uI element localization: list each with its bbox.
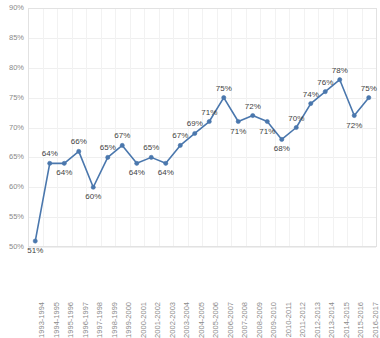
data-point-marker[interactable] [251,113,255,117]
x-axis-tick-label: 2010-2011 [285,302,293,337]
x-axis-tick-label: 1998-1999 [111,302,119,338]
data-point-marker[interactable] [338,78,342,82]
data-point-marker[interactable] [149,155,153,159]
x-axis-tick-label: 2014-2015 [343,302,351,338]
x-axis-tick-label: 1993-1994 [38,302,46,338]
y-axis-tick-label: 50% [0,243,24,251]
x-axis-tick-label: 2008-2009 [256,302,264,338]
y-axis-tick-label: 80% [0,64,24,72]
data-point-marker[interactable] [280,137,284,141]
data-point-marker[interactable] [294,125,298,129]
data-point-marker[interactable] [135,161,139,165]
x-axis: 1993-19941994-19951995-19961996-19971997… [28,249,376,304]
x-axis-tick-label: 2001-2002 [154,302,162,338]
data-point-marker[interactable] [48,161,52,165]
plot-area [28,8,376,247]
x-axis-tick-label: 2003-2004 [183,302,191,338]
data-point-marker[interactable] [33,239,37,243]
y-axis: 50%55%60%65%70%75%80%85%90% [0,0,26,304]
y-axis-tick-label: 55% [0,213,24,221]
data-point-marker[interactable] [323,90,327,94]
data-point-marker[interactable] [62,161,66,165]
data-series [28,8,376,247]
y-axis-tick-label: 90% [0,4,24,12]
x-axis-tick-label: 2002-2003 [169,302,177,338]
x-axis-tick-label: 1999-2000 [125,302,133,338]
data-point-marker[interactable] [236,119,240,123]
data-point-marker[interactable] [222,96,226,100]
data-point-marker[interactable] [164,161,168,165]
data-point-marker[interactable] [193,131,197,135]
x-axis-tick-label: 2000-2001 [140,302,148,338]
x-axis-tick-label: 2011-2012 [299,302,307,337]
x-axis-tick-label: 2015-2016 [357,302,365,338]
x-axis-tick-label: 2009-2010 [270,302,278,338]
x-axis-tick-label: 2006-2007 [227,302,235,338]
data-point-marker[interactable] [265,119,269,123]
y-axis-tick-label: 65% [0,153,24,161]
x-axis-tick-label: 2013-2014 [328,302,336,338]
x-axis-tick-label: 2007-2008 [241,302,249,338]
x-axis-tick-label: 2012-2013 [314,302,322,338]
y-axis-tick-label: 75% [0,94,24,102]
series-line [35,80,369,241]
y-axis-tick-label: 85% [0,34,24,42]
x-axis-tick-label: 2004-2005 [198,302,206,338]
data-point-marker[interactable] [77,149,81,153]
x-axis-tick-label: 1996-1997 [82,302,90,338]
data-point-marker[interactable] [106,155,110,159]
data-point-marker[interactable] [309,102,313,106]
data-point-marker[interactable] [120,143,124,147]
x-axis-tick-label: 1997-1998 [96,302,104,338]
data-point-marker[interactable] [91,185,95,189]
x-axis-tick-label: 2005-2006 [212,302,220,338]
y-axis-tick-label: 70% [0,124,24,132]
data-point-marker[interactable] [352,113,356,117]
data-point-marker[interactable] [367,96,371,100]
x-axis-tick-label: 1995-1996 [67,302,75,338]
x-axis-tick-label: 1994-1995 [53,302,61,338]
data-point-marker[interactable] [207,119,211,123]
x-axis-tick-label: 2016-2017 [372,302,380,338]
data-point-marker[interactable] [178,143,182,147]
y-axis-tick-label: 60% [0,183,24,191]
